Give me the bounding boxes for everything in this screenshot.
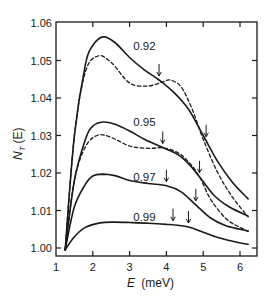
x-tick-label: 3 [127, 261, 133, 273]
series-line-0-92 [65, 37, 248, 250]
x-tick-label: 5 [200, 261, 206, 273]
series-line-0-95-dashed [65, 135, 248, 250]
x-tick-label: 6 [237, 261, 243, 273]
down-arrow-icon [164, 170, 168, 182]
y-tick-label: 1.02 [31, 167, 52, 179]
series-label: 0.95 [133, 116, 155, 128]
axis-ticks: 1234561.001.011.021.031.041.051.06 [31, 17, 257, 273]
x-tick-label: 1 [53, 261, 59, 273]
series-group [65, 37, 248, 250]
down-arrow-icon [194, 189, 198, 201]
x-axis-label: E (meV) [127, 276, 174, 290]
down-arrow-icon [186, 211, 190, 223]
down-arrow-icon [204, 125, 208, 137]
down-arrow-icon [171, 209, 175, 221]
series-label: 0.99 [133, 211, 155, 223]
series-labels: 0.920.950.970.99 [133, 40, 155, 223]
series-label: 0.97 [133, 171, 155, 183]
series-label: 0.92 [133, 40, 155, 52]
y-tick-label: 1.04 [31, 92, 52, 104]
series-line-0-95 [65, 122, 248, 250]
x-tick-label: 2 [90, 261, 96, 273]
y-tick-label: 1.03 [31, 130, 52, 142]
down-arrow-icon [161, 132, 165, 144]
y-axis-label: NT(E) [11, 127, 27, 160]
x-tick-label: 4 [163, 261, 169, 273]
down-arrow-icon [157, 64, 161, 76]
y-tick-label: 1.06 [31, 17, 52, 29]
chart: 1234561.001.011.021.031.041.051.06 0.920… [0, 0, 272, 296]
y-tick-label: 1.01 [31, 205, 52, 217]
y-tick-label: 1.00 [31, 242, 52, 254]
y-tick-label: 1.05 [31, 55, 52, 67]
down-arrow-icon [197, 161, 201, 173]
series-line-0-92-dashed [65, 56, 248, 250]
series-line-0-99 [65, 222, 248, 250]
